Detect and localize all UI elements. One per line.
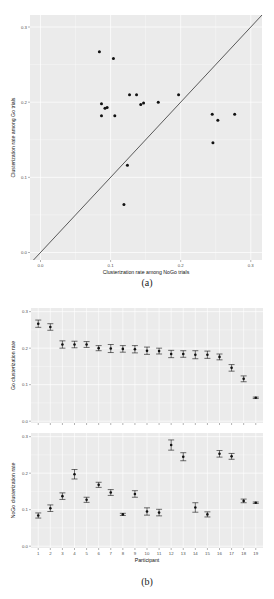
x-tick-label: 3 xyxy=(61,551,64,556)
data-point xyxy=(216,119,219,122)
x-tick-label: 6 xyxy=(97,551,100,556)
y-tick-label: 0.0 xyxy=(22,419,29,424)
x-tick-label: 8 xyxy=(122,551,125,556)
mean-point xyxy=(182,353,185,356)
data-point xyxy=(211,141,214,144)
data-point xyxy=(157,101,160,104)
mean-point xyxy=(158,350,161,353)
y-tick-label: 0.1 xyxy=(22,382,29,387)
mean-point xyxy=(73,473,76,476)
data-point xyxy=(139,103,142,106)
x-axis-title: Clusterization rate among NoGo trials xyxy=(103,269,190,275)
mean-point xyxy=(218,356,221,359)
mean-point xyxy=(146,510,149,513)
mean-point xyxy=(230,455,233,458)
nogo-rate-errorbar-plot: 123456789101112131415161718190.00.10.20.… xyxy=(10,433,263,563)
mean-point xyxy=(206,513,209,516)
y-tick-label: 0.3 xyxy=(22,434,29,439)
x-tick-label: 18 xyxy=(241,551,246,556)
data-point xyxy=(112,57,115,60)
caption-a: (a) xyxy=(10,277,274,288)
x-tick-label: 14 xyxy=(193,551,198,556)
y-tick-label: 0.1 xyxy=(21,175,28,180)
y-axis-title: NoGo clusterization rate xyxy=(10,463,16,519)
mean-point xyxy=(109,347,112,350)
x-tick-label: 9 xyxy=(134,551,137,556)
mean-point xyxy=(170,353,173,356)
mean-point xyxy=(194,353,197,356)
y-tick-label: 0.3 xyxy=(22,309,29,314)
x-tick-label: 16 xyxy=(217,551,222,556)
x-tick-label: 2 xyxy=(49,551,52,556)
x-tick-label: 10 xyxy=(145,551,150,556)
mean-point xyxy=(37,322,40,325)
mean-point xyxy=(218,453,221,456)
mean-point xyxy=(85,499,88,502)
mean-point xyxy=(109,491,112,494)
x-tick-label: 7 xyxy=(110,551,113,556)
mean-point xyxy=(254,397,257,400)
mean-point xyxy=(170,444,173,447)
data-point xyxy=(113,114,116,117)
data-point xyxy=(122,203,125,206)
caption-b: (b) xyxy=(10,576,274,587)
y-tick-label: 0.0 xyxy=(22,544,29,549)
data-point xyxy=(142,101,145,104)
data-point xyxy=(128,93,131,96)
x-tick-label: 17 xyxy=(229,551,234,556)
mean-point xyxy=(97,347,100,350)
mean-point xyxy=(49,326,52,329)
scatter-plot-go-vs-nogo: 0.00.10.20.30.00.10.20.3Clusterization r… xyxy=(10,15,262,275)
x-tick-label: 13 xyxy=(181,551,186,556)
x-tick-label: 1 xyxy=(37,551,40,556)
data-point xyxy=(126,164,129,167)
x-tick-label: 0.0 xyxy=(38,263,45,268)
x-tick-label: 0.2 xyxy=(178,263,185,268)
y-tick-label: 0.1 xyxy=(22,507,29,512)
x-tick-label: 5 xyxy=(85,551,88,556)
mean-point xyxy=(134,348,137,351)
x-tick-label: 15 xyxy=(205,551,210,556)
x-tick-label: 0.1 xyxy=(108,263,115,268)
y-tick-label: 0.2 xyxy=(22,346,29,351)
mean-point xyxy=(230,367,233,370)
mean-point xyxy=(134,493,137,496)
go-rate-errorbar-plot: 0.00.10.20.3Go clusterization rate xyxy=(10,308,263,425)
mean-point xyxy=(61,343,64,346)
data-point xyxy=(103,107,106,110)
data-point xyxy=(233,113,236,116)
x-axis-title: Participant xyxy=(135,557,160,563)
y-tick-label: 0.2 xyxy=(22,471,29,476)
data-point xyxy=(211,113,214,116)
x-tick-label: 0.3 xyxy=(248,263,255,268)
mean-point xyxy=(122,348,125,351)
mean-point xyxy=(85,343,88,346)
mean-point xyxy=(61,495,64,498)
mean-point xyxy=(182,455,185,458)
mean-point xyxy=(158,511,161,514)
mean-point xyxy=(146,349,149,352)
x-tick-label: 19 xyxy=(253,551,258,556)
x-tick-label: 4 xyxy=(73,551,76,556)
x-tick-label: 12 xyxy=(169,551,174,556)
y-tick-label: 0.2 xyxy=(21,100,28,105)
data-point xyxy=(100,102,103,105)
mean-point xyxy=(242,500,245,503)
data-point xyxy=(177,93,180,96)
y-tick-label: 0.0 xyxy=(21,250,28,255)
mean-point xyxy=(122,513,125,516)
mean-point xyxy=(206,353,209,356)
figure-canvas: 0.00.10.20.30.00.10.20.3Clusterization r… xyxy=(0,0,274,599)
mean-point xyxy=(194,506,197,509)
data-point xyxy=(100,114,103,117)
mean-point xyxy=(37,514,40,517)
mean-point xyxy=(49,507,52,510)
mean-point xyxy=(242,378,245,381)
y-tick-label: 0.3 xyxy=(21,25,28,30)
x-tick-label: 11 xyxy=(157,551,162,556)
y-axis-title: Go clusterization rate xyxy=(10,341,16,390)
mean-point xyxy=(97,484,100,487)
data-point xyxy=(98,50,101,53)
data-point xyxy=(135,93,138,96)
y-axis-title: Clusterization rate among Go trials xyxy=(10,97,16,177)
